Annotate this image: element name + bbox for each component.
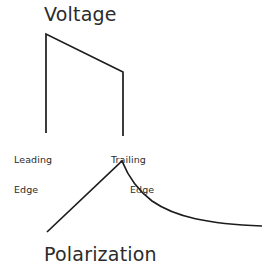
leading-edge-label-line1: Leading: [14, 155, 52, 165]
trailing-edge-label-line2: Edge: [111, 185, 154, 195]
polarization-waveform-trace: [47, 161, 262, 232]
leading-edge-label: Leading Edge: [14, 135, 52, 215]
trailing-edge-label-line1: Trailing: [111, 155, 154, 165]
trailing-edge-label: Trailing Edge: [111, 135, 154, 215]
leading-edge-label-line2: Edge: [14, 185, 52, 195]
voltage-waveform-trace: [46, 34, 123, 136]
voltage-title-label: Voltage: [44, 5, 117, 25]
voltage-polarization-diagram: Voltage Leading Edge Trailing Edge Polar…: [0, 0, 262, 272]
polarization-title-label: Polarization: [44, 245, 157, 265]
